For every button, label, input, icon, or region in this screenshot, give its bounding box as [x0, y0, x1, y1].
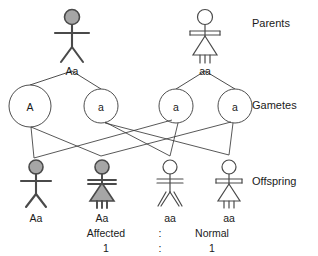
- figure-offspring-3: [157, 160, 183, 206]
- offspring-1-leg-left: [26, 194, 36, 207]
- row-label-offspring: Offspring: [252, 176, 296, 187]
- mother-head: [198, 10, 213, 25]
- gamete-offspring-connectors: [31, 120, 233, 158]
- offspring-4-head: [222, 160, 236, 174]
- figure-parent-mother: [190, 10, 220, 64]
- figure-offspring-1: [21, 160, 51, 207]
- connector-a1-mother-to-offspring-1: [34, 120, 172, 158]
- diagram-canvas: [0, 0, 318, 256]
- gamete-label-father-A: A: [26, 102, 33, 113]
- offspring-2-head: [95, 160, 109, 174]
- gamete-label-mother-a1: a: [173, 102, 179, 113]
- connector-a2-mother-to-offspring-4: [229, 123, 233, 155]
- ratio-label-affected: Affected: [87, 228, 125, 239]
- genotype-offspring-4: aa: [223, 213, 235, 224]
- figure-offspring-4: [216, 160, 242, 208]
- connector-a-father-to-offspring-3: [105, 122, 170, 156]
- figure-parent-father: [55, 10, 89, 63]
- connector-A-to-offspring-1: [31, 127, 34, 158]
- offspring-1-leg-right: [36, 194, 46, 207]
- genotype-parent-mother: aa: [199, 66, 211, 77]
- mother-skirt: [193, 36, 217, 55]
- offspring-2-skirt: [90, 183, 114, 201]
- gamete-label-father-a: a: [98, 102, 104, 113]
- ratio-value-normal: 1: [209, 243, 215, 254]
- connector-a1-mother-to-offspring-3: [170, 123, 178, 156]
- genotype-offspring-1: Aa: [30, 213, 43, 224]
- gamete-circles: [9, 85, 252, 127]
- row-label-gametes: Gametes: [252, 100, 297, 111]
- row-label-parents: Parents: [252, 18, 290, 29]
- genotype-offspring-2: Aa: [96, 213, 109, 224]
- offspring-3-head: [163, 160, 177, 174]
- ratio-separator-words: :: [159, 228, 162, 239]
- offspring-1-head: [29, 160, 43, 174]
- father-leg-right: [72, 47, 83, 62]
- father-leg-left: [61, 47, 72, 62]
- ratio-label-normal: Normal: [195, 228, 229, 239]
- pedigree-diagram: A a a a Parents Gametes Offspring Aa aa …: [0, 0, 318, 256]
- ratio-value-affected: 1: [103, 243, 109, 254]
- ratio-separator-values: :: [159, 243, 162, 254]
- figure-offspring-2: [88, 160, 116, 208]
- father-head: [65, 10, 80, 25]
- genotype-parent-father: Aa: [66, 66, 79, 77]
- offspring-4-skirt: [218, 184, 240, 201]
- connector-A-to-offspring-2: [31, 127, 101, 156]
- genotype-offspring-3: aa: [164, 213, 176, 224]
- gamete-label-mother-a2: a: [232, 102, 238, 113]
